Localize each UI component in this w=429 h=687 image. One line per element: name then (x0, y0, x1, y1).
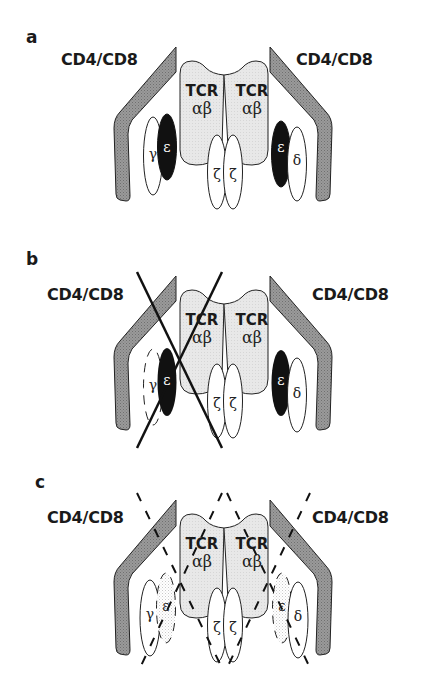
delta-label: δ (287, 152, 307, 168)
zeta-right-label: ζ (223, 166, 243, 182)
epsilon-left-label: ε (156, 598, 176, 614)
epsilon-left-label: ε (157, 139, 177, 155)
tcr-right-label: TCR (230, 311, 274, 329)
panel-c-diagram (0, 458, 429, 687)
tcr-right-chains: αβ (230, 552, 274, 571)
tcr-right-label: TCR (230, 535, 274, 553)
zeta-right-label: ζ (223, 395, 243, 411)
right-coreceptor-label: CD4/CD8 (312, 285, 389, 304)
panel-label: c (35, 472, 45, 492)
zeta-right-label: ζ (223, 619, 243, 635)
tcr-left-chains: αβ (180, 552, 224, 571)
left-coreceptor-label: CD4/CD8 (47, 285, 124, 304)
left-coreceptor-label: CD4/CD8 (47, 508, 124, 527)
panel-label: b (26, 249, 38, 269)
right-coreceptor-label: CD4/CD8 (312, 508, 389, 527)
left-coreceptor-label: CD4/CD8 (61, 50, 138, 69)
tcr-left-label: TCR (180, 311, 224, 329)
panel-b: b CD4/CD8 CD4/CD8 TCR αβ TCR αβ γ ε ζ ζ … (0, 229, 429, 458)
delta-label: δ (288, 608, 308, 624)
panel-c: c CD4/CD8 CD4/CD8 TCR αβ TCR αβ γ ε ζ ζ … (0, 458, 429, 687)
tcr-right-chains: αβ (230, 99, 274, 118)
tcr-left-label: TCR (180, 82, 224, 100)
tcr-right-chains: αβ (230, 328, 274, 347)
delta-label: δ (287, 385, 307, 401)
tcr-right-label: TCR (230, 82, 274, 100)
tcr-left-chains: αβ (180, 328, 224, 347)
epsilon-left-label: ε (157, 372, 177, 388)
tcr-left-label: TCR (180, 535, 224, 553)
right-coreceptor-label: CD4/CD8 (296, 50, 373, 69)
panel-label: a (26, 27, 37, 47)
tcr-left-chains: αβ (180, 99, 224, 118)
panel-a: a CD4/CD8 CD4/CD8 TCR αβ TCR αβ γ ε ζ ζ … (0, 0, 429, 229)
